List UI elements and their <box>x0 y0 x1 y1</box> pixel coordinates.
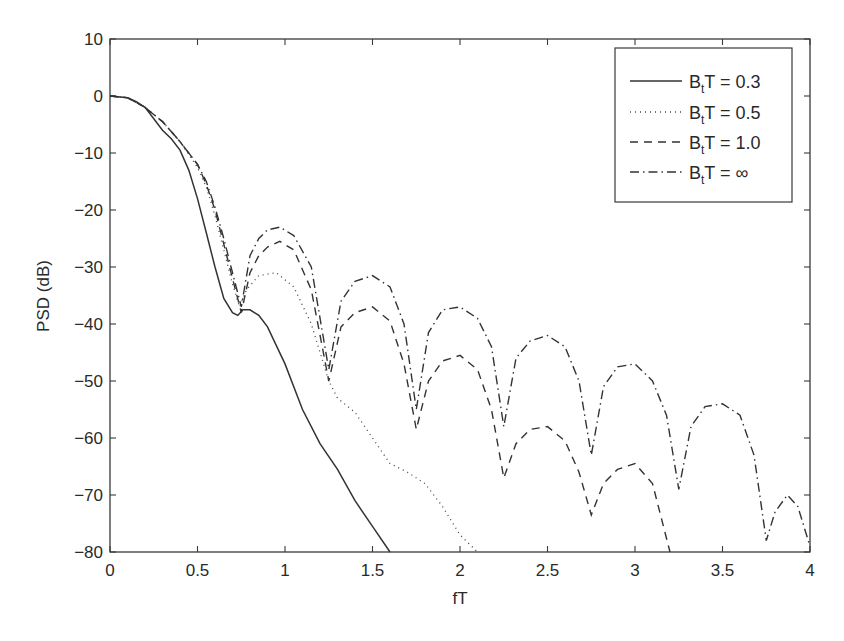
psd-chart: 00.511.522.533.54 100−10−20−30−40−50−60−… <box>0 0 844 641</box>
x-tick-label: 2.5 <box>536 561 560 580</box>
x-tick-label: 1 <box>280 561 289 580</box>
y-tick-label: −60 <box>74 429 103 448</box>
x-tick-label: 0.5 <box>186 561 210 580</box>
y-tick-label: −50 <box>74 372 103 391</box>
y-tick-label: 10 <box>84 30 103 49</box>
y-tick-label: −70 <box>74 486 103 505</box>
y-tick-label: −80 <box>74 543 103 562</box>
legend: BtT = 0.3 BtT = 0.5 BtT = 1.0 BtT = ∞ <box>615 48 792 202</box>
x-tick-label: 2 <box>455 561 464 580</box>
y-tick-label: 0 <box>94 87 103 106</box>
y-tick-label: −30 <box>74 258 103 277</box>
x-tick-labels: 00.511.522.533.54 <box>105 561 814 580</box>
x-tick-label: 3.5 <box>711 561 735 580</box>
y-tick-labels: 100−10−20−30−40−50−60−70−80 <box>74 30 103 562</box>
y-tick-label: −20 <box>74 201 103 220</box>
x-tick-label: 3 <box>630 561 639 580</box>
y-axis-title: PSD (dB) <box>34 260 53 332</box>
x-tick-label: 1.5 <box>361 561 385 580</box>
x-axis-title: fT <box>452 589 467 608</box>
x-tick-label: 4 <box>805 561 814 580</box>
y-tick-label: −10 <box>74 144 103 163</box>
x-tick-label: 0 <box>105 561 114 580</box>
y-tick-label: −40 <box>74 315 103 334</box>
